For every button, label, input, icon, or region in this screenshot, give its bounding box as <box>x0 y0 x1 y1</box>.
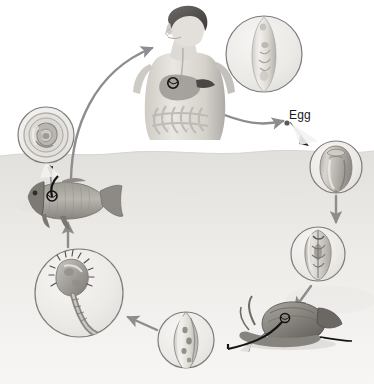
label-layer: Egg <box>0 0 374 384</box>
life-cycle-diagram: Egg <box>0 0 374 384</box>
label-egg: Egg <box>289 108 311 122</box>
